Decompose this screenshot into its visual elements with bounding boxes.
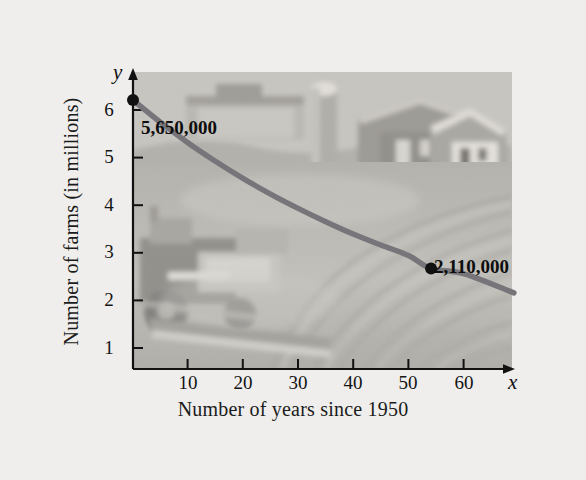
annotation-label-2004: 2,110,000 xyxy=(434,256,509,278)
annotation-label-1950: 5,650,000 xyxy=(141,117,217,139)
x-tick-label-50: 50 xyxy=(387,372,429,394)
y-tick-label-4: 4 xyxy=(96,194,122,216)
y-tick-label-6: 6 xyxy=(96,99,122,121)
data-point-marker-1950 xyxy=(127,94,139,106)
x-tick-label-30: 30 xyxy=(277,372,319,394)
y-axis-title: Number of farms (in millions) xyxy=(60,72,83,372)
x-tick-label-20: 20 xyxy=(222,372,264,394)
x-axis-symbol: x xyxy=(508,370,517,395)
figure-panel: Number of farms (in millions) Number of … xyxy=(0,0,586,480)
x-tick-label-10: 10 xyxy=(167,372,209,394)
x-tick-label-40: 40 xyxy=(332,372,374,394)
y-tick-label-3: 3 xyxy=(96,241,122,263)
y-axis-symbol: y xyxy=(113,60,122,85)
y-tick-label-5: 5 xyxy=(96,146,122,168)
x-tick-label-60: 60 xyxy=(443,372,485,394)
y-tick-label-1: 1 xyxy=(96,337,122,359)
x-axis-title: Number of years since 1950 xyxy=(0,398,586,421)
y-tick-label-2: 2 xyxy=(96,289,122,311)
